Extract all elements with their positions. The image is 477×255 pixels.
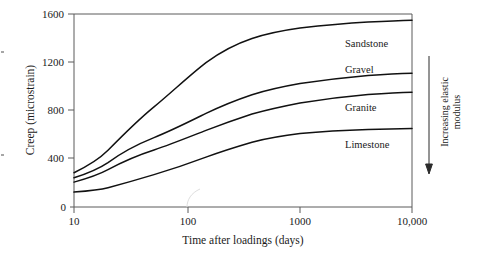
- y-tick-label-0: 0: [61, 201, 67, 213]
- y-tick-label-800: 800: [48, 104, 65, 116]
- y-tick-label-1200: 1200: [42, 56, 65, 68]
- creep-vs-time-chart-figure: 1600 1200 800 400 0 10 100 1000 10,000 T…: [0, 0, 477, 255]
- series-label-granite: Granite: [345, 102, 377, 113]
- x-tick-label-10000: 10,000: [397, 215, 428, 227]
- chart-canvas: 1600 1200 800 400 0 10 100 1000 10,000 T…: [0, 0, 477, 255]
- x-axis-title: Time after loadings (days): [182, 234, 303, 247]
- series-label-limestone: Limestone: [345, 139, 390, 150]
- x-tick-label-1000: 1000: [289, 215, 312, 227]
- y-axis-title: Creep (microstrain): [24, 65, 37, 156]
- increasing-modulus-arrow-head: [426, 164, 433, 174]
- y-tick-label-1600: 1600: [42, 8, 65, 20]
- series-label-gravel: Gravel: [345, 64, 374, 75]
- x-tick-label-10: 10: [69, 215, 81, 227]
- x-tick-label-100: 100: [180, 215, 197, 227]
- increasing-modulus-label-line2: modulus: [451, 95, 462, 130]
- increasing-modulus-label-line1: Increasing elastic: [439, 77, 450, 147]
- y-tick-label-400: 400: [48, 152, 65, 164]
- series-label-sandstone: Sandstone: [345, 38, 389, 49]
- faint-artifact-arc: [187, 189, 200, 207]
